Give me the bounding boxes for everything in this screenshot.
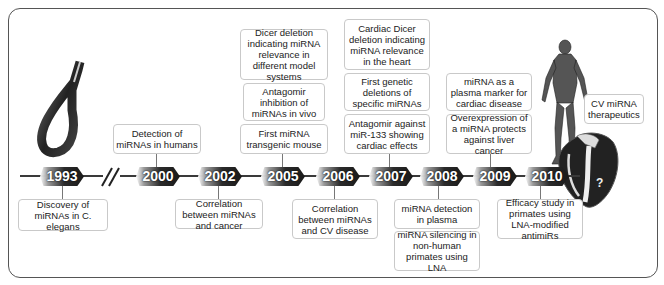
connector-2000 xyxy=(156,154,157,167)
connector-2008 xyxy=(438,186,439,199)
year-badge-2005: 2005 xyxy=(261,167,305,186)
event-2009-plasma-marker: miRNA as a plasma marker for cardiac dis… xyxy=(446,73,532,111)
year-badge-2009: 2009 xyxy=(473,167,517,186)
event-2008-plasma-detection: miRNA detection in plasma xyxy=(394,199,480,229)
event-2005-antagomir-inhibition: Antagomir inhibition of miRNAs in vivo xyxy=(243,83,325,121)
year-badge-2006: 2006 xyxy=(316,167,360,186)
year-badge-2008: 2008 xyxy=(420,167,464,186)
connector-2006 xyxy=(334,186,335,199)
c-elegans-worm-icon xyxy=(28,60,88,160)
connector-1993 xyxy=(62,186,63,199)
event-1993-discovery: Discovery of miRNAs in C. elegans xyxy=(18,199,108,231)
event-2008-primate-silencing: miRNA silencing in non-human primates us… xyxy=(394,231,480,271)
event-2006-cv-disease-correlation: Correlation between miRNAs and CV diseas… xyxy=(292,199,378,239)
event-2010-lna-efficacy: Efficacy study in primates using LNA-mod… xyxy=(497,199,583,239)
year-badge-1993: 1993 xyxy=(40,167,84,186)
event-2009-liver-cancer: Overexpression of a miRNA protects again… xyxy=(446,114,532,154)
heart-question-mark: ? xyxy=(596,176,603,190)
event-2007-antagomir-mir133: Antagomir against miR-133 showing cardia… xyxy=(344,114,430,154)
year-badge-2002: 2002 xyxy=(198,167,242,186)
connector-2007 xyxy=(389,154,390,167)
event-2007-cardiac-dicer: Cardiac Dicer deletion indicating miRNA … xyxy=(344,19,430,70)
event-2005-transgenic-mouse: First miRNA transgenic mouse xyxy=(240,124,328,154)
year-badge-2010: 2010 xyxy=(525,167,569,186)
connector-2005 xyxy=(282,154,283,167)
year-badge-2000: 2000 xyxy=(136,167,180,186)
event-2000-detection-humans: Detection of miRNAs in humans xyxy=(113,124,201,154)
event-future-cv-therapeutics: CV miRNA therapeutics xyxy=(584,94,644,124)
timeline-break-icon xyxy=(100,166,122,188)
event-2005-dicer-deletion: Dicer deletion indicating miRNA relevanc… xyxy=(240,29,328,80)
event-2002-cancer-correlation: Correlation between miRNAs and cancer xyxy=(175,199,263,229)
year-badge-2007: 2007 xyxy=(369,167,413,186)
event-2007-genetic-deletions: First genetic deletions of specific miRN… xyxy=(344,73,430,111)
